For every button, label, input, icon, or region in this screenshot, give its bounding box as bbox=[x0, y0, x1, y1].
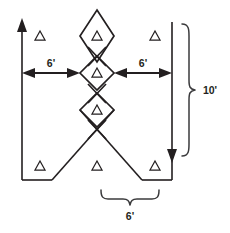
triangle-bottom-center-icon bbox=[92, 161, 102, 170]
left-dimension-group: 6' bbox=[22, 57, 80, 78]
triangle-diamond-lower-icon bbox=[92, 105, 102, 114]
right-dimension-group: 6' bbox=[114, 57, 172, 78]
bottom-brace bbox=[101, 190, 159, 205]
geometry-diagram: 6' 6' 10' 6' bbox=[0, 0, 230, 233]
diamond-upper bbox=[80, 10, 114, 62]
diamond-lower bbox=[80, 93, 114, 127]
right-dimension-arrow-right-icon bbox=[159, 68, 172, 78]
left-dimension-arrow-right-icon bbox=[67, 68, 80, 78]
left-dimension-label: 6' bbox=[47, 57, 55, 69]
right-dimension-arrow-left-icon bbox=[114, 68, 127, 78]
diamond-chain bbox=[80, 10, 114, 139]
triangle-bottom-right-icon bbox=[150, 161, 160, 170]
bottom-brace-label: 6' bbox=[126, 210, 134, 222]
left-dimension-arrow-left-icon bbox=[22, 68, 35, 78]
vertical-brace bbox=[182, 24, 195, 156]
vertical-brace-group: 10' bbox=[182, 24, 217, 156]
triangle-diamond-middle-icon bbox=[92, 68, 102, 77]
triangle-top-right-icon bbox=[150, 31, 160, 40]
triangle-diamond-upper-icon bbox=[92, 31, 102, 40]
left-axis-arrow-up-icon bbox=[17, 18, 27, 32]
diagram-canvas: 6' 6' 10' 6' bbox=[0, 0, 230, 233]
right-dimension-label: 6' bbox=[139, 57, 147, 69]
vertical-brace-label: 10' bbox=[203, 84, 217, 96]
bottom-brace-group: 6' bbox=[101, 190, 159, 222]
triangle-top-left-icon bbox=[35, 31, 45, 40]
boundary-lines bbox=[22, 22, 172, 180]
triangle-bottom-left-icon bbox=[35, 161, 45, 170]
right-axis-arrow-down-icon bbox=[167, 149, 177, 163]
triangle-markers bbox=[35, 31, 160, 170]
